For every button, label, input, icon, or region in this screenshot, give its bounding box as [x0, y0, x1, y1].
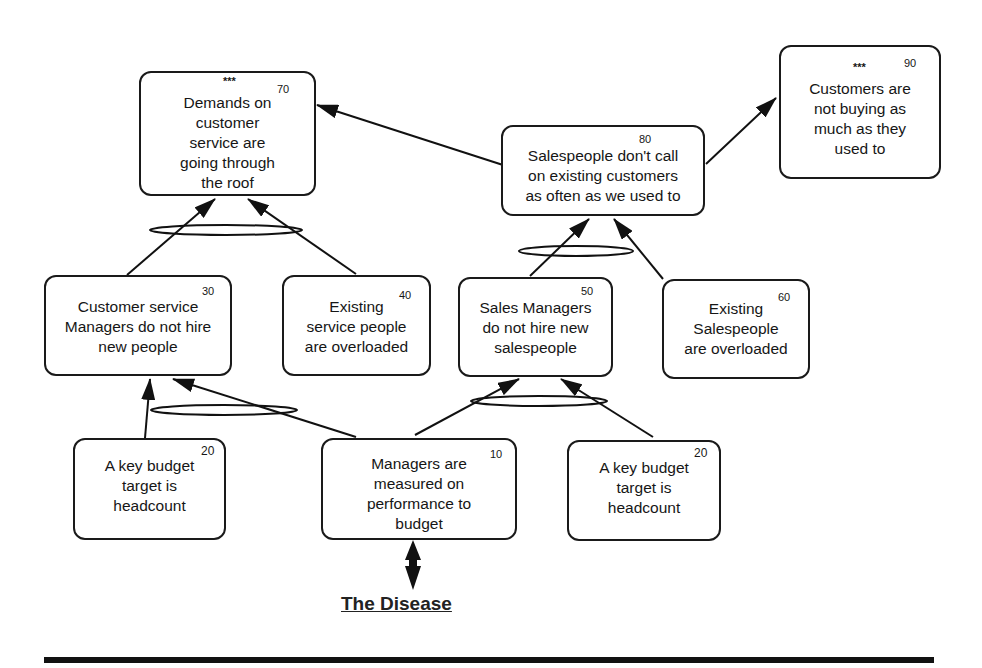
node-number: 90: [904, 57, 916, 69]
node-40: 40 Existingservice peopleare overloaded: [282, 275, 431, 376]
priority-stars: ***: [853, 61, 866, 73]
priority-stars: ***: [223, 75, 236, 87]
node-label: A key budgettarget isheadcount: [573, 458, 715, 518]
horizontal-rule: [44, 657, 934, 663]
diagram-canvas: *** 70 Demands oncustomerservice aregoin…: [0, 0, 982, 668]
edge-10-to-30: [173, 379, 356, 437]
and-connector-a: [150, 225, 302, 235]
node-90: *** 90 Customers arenot buying asmuch as…: [779, 45, 941, 179]
node-30: 30 Customer serviceManagers do not hiren…: [44, 275, 232, 376]
and-connector-c: [151, 405, 297, 415]
node-20-left: 20 A key budgettarget isheadcount: [73, 438, 226, 540]
node-number: 80: [639, 133, 651, 145]
edge-20a-to-30: [145, 379, 150, 438]
edge-30-to-70: [127, 199, 215, 275]
node-80: 80 Salespeople don't callon existing cus…: [501, 125, 705, 216]
edge-60-to-80: [614, 219, 663, 279]
node-10: 10 Managers aremeasured onperformance to…: [321, 438, 517, 540]
node-label: Existingservice peopleare overloaded: [288, 297, 425, 357]
node-label: Demands oncustomerservice aregoing throu…: [145, 93, 310, 193]
edge-20b-to-50: [561, 379, 653, 437]
node-number: 30: [202, 285, 214, 297]
bidirectional-arrow: [405, 540, 421, 590]
node-60: 60 ExistingSalespeopleare overloaded: [662, 279, 810, 379]
edge-40-to-70: [248, 199, 356, 274]
node-label: Sales Managersdo not hire newsalespeople: [464, 298, 607, 358]
edge-80-to-70: [317, 105, 503, 165]
edge-10-to-50: [415, 379, 519, 435]
node-50: 50 Sales Managersdo not hire newsalespeo…: [458, 277, 613, 377]
node-label: Salespeople don't callon existing custom…: [507, 146, 699, 206]
node-label: A key budgettarget isheadcount: [79, 456, 220, 516]
diagram-title: The Disease: [341, 593, 452, 615]
node-label: Managers aremeasured onperformance tobud…: [327, 454, 511, 534]
node-20-right: 20 A key budgettarget isheadcount: [567, 440, 721, 541]
node-label: Customers arenot buying asmuch as theyus…: [785, 79, 935, 159]
and-connector-b: [519, 246, 633, 256]
node-label: Customer serviceManagers do not hirenew …: [50, 297, 226, 357]
node-label: ExistingSalespeopleare overloaded: [668, 299, 804, 359]
node-number: 50: [581, 285, 593, 297]
edge-80-to-90: [706, 98, 776, 164]
node-70: *** 70 Demands oncustomerservice aregoin…: [139, 71, 316, 196]
and-connector-d: [471, 396, 607, 406]
